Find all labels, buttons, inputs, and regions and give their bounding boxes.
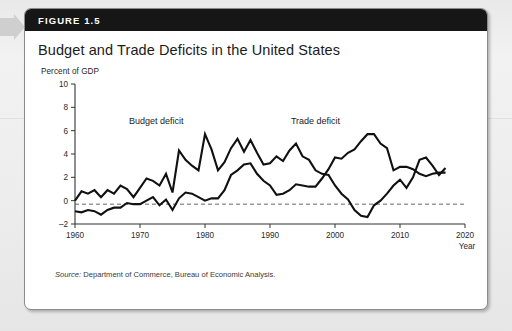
y-tick-label: 2 — [63, 173, 68, 182]
figure-number-label: FIGURE 1.5 — [38, 15, 101, 26]
figure-title: Budget and Trade Deficits in the United … — [25, 31, 487, 58]
y-tick-label: –2 — [59, 220, 69, 229]
y-tick-label: 10 — [59, 80, 69, 89]
y-tick-label: 0 — [63, 197, 68, 206]
x-tick-label: 2000 — [326, 231, 345, 240]
x-tick-label: 1970 — [131, 231, 150, 240]
y-tick-label: 8 — [63, 103, 68, 112]
page-root: FIGURE 1.5 Budget and Trade Deficits in … — [0, 0, 512, 331]
x-tick-label: 1990 — [261, 231, 280, 240]
chart-plot-area: –202468101960197019801990200020102020Yea… — [25, 76, 487, 261]
x-tick-label: 2010 — [391, 231, 410, 240]
x-tick-label: 1960 — [66, 231, 85, 240]
source-text: Department of Commerce, Bureau of Econom… — [81, 270, 275, 279]
annotation-label: Trade deficit — [291, 116, 341, 126]
series-line-trade-deficit — [75, 134, 446, 215]
y-tick-label: 4 — [63, 150, 68, 159]
figure-header: FIGURE 1.5 — [25, 9, 487, 31]
y-axis-label: Percent of GDP — [25, 58, 487, 76]
x-tick-label: 1980 — [196, 231, 215, 240]
x-axis-label: Year — [459, 242, 476, 251]
deficits-line-chart: –202468101960197019801990200020102020Yea… — [25, 76, 487, 261]
annotation-label: Budget deficit — [129, 116, 184, 126]
figure-card: FIGURE 1.5 Budget and Trade Deficits in … — [24, 8, 488, 310]
figure-source: Source: Department of Commerce, Bureau o… — [25, 261, 487, 279]
page-arrow-marker — [0, 12, 26, 42]
source-prefix: Source: — [55, 270, 81, 279]
x-tick-label: 2020 — [456, 231, 475, 240]
y-tick-label: 6 — [63, 127, 68, 136]
